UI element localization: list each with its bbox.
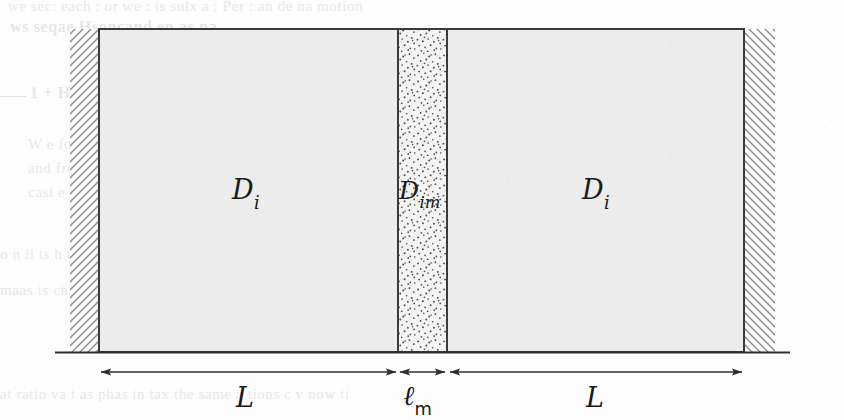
right-length-label: L bbox=[586, 382, 604, 413]
left-diffusivity-label: Di bbox=[232, 174, 259, 209]
figure-page: we sec: each : or we : is sulx a ; Per :… bbox=[0, 0, 844, 420]
right-diffusivity-label: Di bbox=[582, 174, 609, 209]
left-length-label: L bbox=[236, 382, 254, 413]
left-wall bbox=[70, 29, 99, 352]
membrane-diffusivity-label: Dim bbox=[399, 176, 440, 209]
right-wall bbox=[744, 29, 775, 352]
membrane-length-label: ℓm bbox=[403, 380, 432, 415]
